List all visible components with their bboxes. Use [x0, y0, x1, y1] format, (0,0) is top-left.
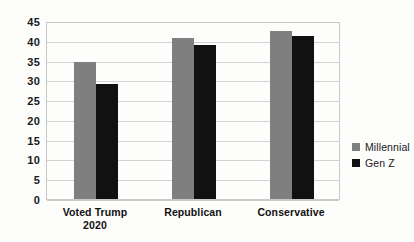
x-axis-category-label: Voted Trump2020	[40, 206, 150, 232]
y-axis-tick-label: 15	[6, 135, 40, 146]
bar-gen-z-voted-trump-2020	[96, 84, 118, 200]
gridline	[47, 22, 339, 23]
plot-area	[46, 22, 340, 200]
bar-millennial-republican	[172, 38, 194, 199]
y-axis-tick-label: 20	[6, 115, 40, 126]
y-axis-tick-label: 10	[6, 155, 40, 166]
x-axis-label-line: Republican	[138, 206, 248, 219]
square-swatch-icon	[352, 143, 360, 151]
x-axis-category-label: Republican	[138, 206, 248, 219]
square-swatch-icon	[352, 159, 360, 167]
y-axis-tick-label: 45	[6, 17, 40, 28]
legend-item-millennial[interactable]: Millennial	[352, 140, 410, 154]
y-axis-tick-label: 40	[6, 36, 40, 47]
x-axis-label-line: Conservative	[236, 206, 346, 219]
bar-millennial-voted-trump-2020	[74, 62, 96, 199]
y-axis-tick-label: 35	[6, 56, 40, 67]
bar-gen-z-republican	[194, 45, 216, 199]
legend-item-gen-z[interactable]: Gen Z	[352, 156, 410, 170]
y-axis-tick-label: 0	[6, 195, 40, 206]
y-axis-tick-label: 25	[6, 96, 40, 107]
x-axis-label-line: Voted Trump	[40, 206, 150, 219]
chart-legend: MillennialGen Z	[352, 140, 410, 172]
y-axis-tick-label: 30	[6, 76, 40, 87]
legend-label: Gen Z	[365, 157, 395, 169]
x-axis-label-line: 2020	[40, 219, 150, 232]
bar-gen-z-conservative	[292, 36, 314, 199]
bar-chart: 051015202530354045 Voted Trump2020Republ…	[0, 0, 414, 242]
x-axis-category-label: Conservative	[236, 206, 346, 219]
bar-millennial-conservative	[270, 31, 292, 199]
legend-label: Millennial	[365, 141, 410, 153]
y-axis-tick-label: 5	[6, 175, 40, 186]
gridline	[47, 200, 339, 201]
